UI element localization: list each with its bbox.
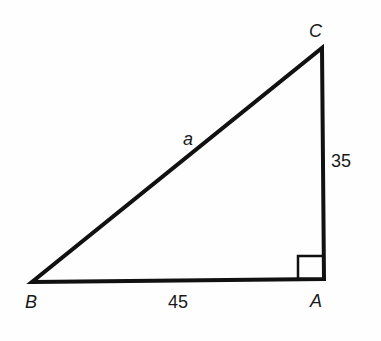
side-label-ba: 45 [168, 293, 188, 311]
vertex-label-b: B [25, 293, 37, 311]
triangle-diagram: C A B 45 35 a [0, 0, 381, 341]
triangle-shape [32, 48, 324, 282]
vertex-label-c: C [309, 22, 322, 40]
vertex-label-a: A [310, 292, 322, 310]
triangle-figure [0, 0, 381, 341]
right-angle-marker [298, 256, 324, 279]
side-label-ac: 35 [331, 152, 351, 170]
side-label-bc: a [183, 130, 193, 148]
